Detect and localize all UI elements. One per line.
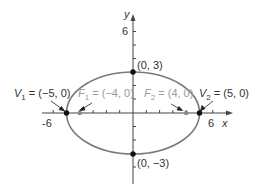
focus-f1-point	[78, 111, 83, 116]
bottom-point	[130, 151, 135, 156]
x-tick-6-label: 6	[208, 117, 214, 129]
top-point	[130, 69, 135, 74]
y-axis-label: y	[123, 8, 131, 20]
top-point-label: (0, 3)	[137, 59, 163, 71]
vertex-v1-point	[64, 110, 69, 115]
pointer-arrows	[51, 101, 213, 111]
y-tick-6-label: 6	[122, 25, 128, 37]
v2-label: V2 = (5, 0)	[199, 87, 249, 102]
focus-f2-point	[184, 111, 189, 116]
f1-label: F1 = (−4, 0)	[78, 87, 134, 102]
x-axis-label: x	[221, 117, 228, 129]
x-tick-neg6-label: -6	[42, 117, 52, 129]
f2-label: F2 = (4, 0)	[144, 87, 193, 102]
v1-label: V1 = (−5, 0)	[14, 87, 70, 102]
x-axis	[42, 110, 233, 116]
bottom-point-label: (0, −3)	[137, 157, 169, 169]
y-axis	[131, 14, 137, 184]
x-axis-arrow-icon	[226, 111, 233, 116]
vertex-v2-point	[197, 110, 202, 115]
y-axis-arrow-icon	[131, 14, 136, 21]
ellipse-diagram: y x 6 -6 6 (0, 3) (0, −3) V1 = (−5, 0) F…	[0, 0, 256, 193]
